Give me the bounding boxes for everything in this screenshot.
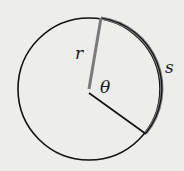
angle-label: θ [100,77,110,97]
arc-label: s [165,57,174,77]
arc-s [101,18,162,133]
radius-line [89,93,146,134]
arc-length-diagram: r θ s [0,0,184,171]
arc-s-outline [101,18,162,133]
radius-label: r [75,43,84,63]
